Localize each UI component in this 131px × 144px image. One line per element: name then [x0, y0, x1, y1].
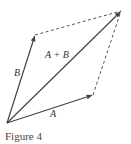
vector-sum-arrow: [7, 12, 120, 123]
label-a: A: [50, 109, 56, 119]
label-b: B: [14, 68, 20, 78]
vector-addition-figure: A + B B A Figure 4: [0, 0, 131, 144]
label-sum: A + B: [45, 50, 69, 60]
dashed-line-a-to-sum: [93, 11, 121, 95]
dashed-line-b-to-sum: [35, 11, 121, 35]
figure-caption: Figure 4: [5, 131, 42, 142]
